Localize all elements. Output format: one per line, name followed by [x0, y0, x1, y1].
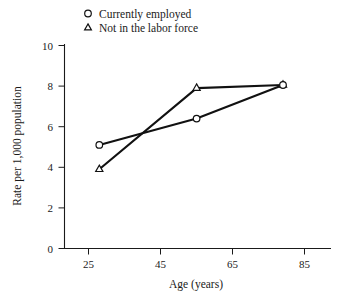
data-point-circle-3: [280, 82, 287, 89]
y-tick-label-8: 8: [48, 80, 54, 92]
x-tick-label-25: 25: [83, 258, 95, 270]
series-line-triangle: [99, 85, 283, 169]
legend-label-not-in-labor-force: Not in the labor force: [99, 22, 198, 34]
data-point-circle-1: [96, 142, 103, 149]
y-tick-label-4: 4: [48, 161, 54, 173]
axis-spines: [65, 44, 332, 249]
x-tick-label-85: 85: [299, 258, 311, 270]
legend-marker-circle-icon: [85, 10, 92, 17]
x-tick-label-45: 45: [155, 258, 167, 270]
x-tick-label-65: 65: [227, 258, 239, 270]
line-chart: Currently employed Not in the labor forc…: [0, 0, 351, 302]
y-axis-title: Rate per 1,000 population: [11, 86, 24, 206]
x-axis-ticks: [89, 249, 305, 255]
chart-legend: Currently employed Not in the labor forc…: [85, 8, 198, 34]
y-axis-ticks: [59, 46, 65, 249]
legend-marker-triangle-icon: [85, 24, 92, 30]
y-tick-label-6: 6: [48, 121, 54, 133]
x-axis-tick-labels: 25 45 65 85: [83, 258, 311, 270]
legend-label-currently-employed: Currently employed: [99, 8, 192, 21]
y-tick-label-10: 10: [42, 40, 54, 52]
y-axis-tick-labels: 0 2 4 6 8 10: [42, 40, 54, 255]
y-tick-label-0: 0: [48, 243, 54, 255]
y-tick-label-2: 2: [48, 202, 54, 214]
data-point-circle-2: [193, 115, 200, 122]
x-axis-title: Age (years): [169, 278, 223, 291]
chart-container: Currently employed Not in the labor forc…: [0, 0, 351, 302]
